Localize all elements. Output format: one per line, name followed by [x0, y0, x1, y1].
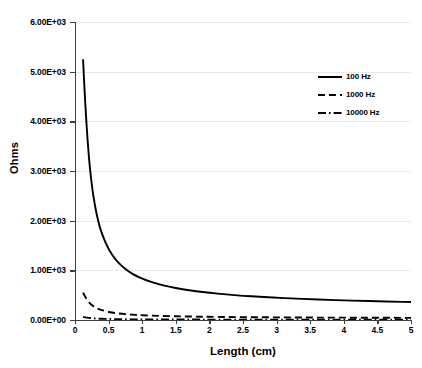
y-axis-line [75, 22, 76, 320]
legend-item[interactable]: 100 Hz [318, 72, 379, 81]
x-tick-mark [109, 320, 110, 324]
y-axis-title: Ohms [8, 128, 20, 188]
x-tick-mark [344, 320, 345, 324]
chart-container: Ohms 0.00E+001.00E+032.00E+033.00E+034.0… [0, 0, 422, 368]
y-tick-label: 4.00E+03 [2, 116, 66, 126]
x-tick-mark [310, 320, 311, 324]
y-tick-label: 6.00E+03 [2, 17, 66, 27]
y-tick-mark [70, 72, 75, 73]
y-tick-mark [70, 121, 75, 122]
y-tick-label: 0.00E+00 [2, 315, 66, 325]
legend-label: 1000 Hz [346, 90, 375, 99]
x-tick-mark [243, 320, 244, 324]
x-tick-mark [277, 320, 278, 324]
legend-line-swatch [318, 109, 342, 117]
y-tick-label: 5.00E+03 [2, 67, 66, 77]
y-tick-label: 2.00E+03 [2, 216, 66, 226]
legend-label: 10000 Hz [346, 108, 379, 117]
y-tick-mark [70, 22, 75, 23]
y-tick-label: 1.00E+03 [2, 265, 66, 275]
legend-line-swatch [318, 73, 342, 81]
chart-legend: 100 Hz1000 Hz10000 Hz [318, 72, 379, 117]
plot-area [75, 22, 411, 320]
legend-line-swatch [318, 91, 342, 99]
x-tick-mark [75, 320, 76, 324]
legend-label: 100 Hz [346, 72, 371, 81]
y-tick-mark [70, 270, 75, 271]
x-tick-mark [142, 320, 143, 324]
series-lines [75, 22, 411, 320]
x-tick-mark [176, 320, 177, 324]
y-tick-mark [70, 221, 75, 222]
legend-item[interactable]: 1000 Hz [318, 90, 379, 99]
x-tick-mark [377, 320, 378, 324]
x-axis-title: Length (cm) [75, 345, 411, 357]
y-tick-label: 3.00E+03 [2, 166, 66, 176]
y-tick-mark [70, 171, 75, 172]
x-tick-mark [209, 320, 210, 324]
legend-item[interactable]: 10000 Hz [318, 108, 379, 117]
x-tick-mark [411, 320, 412, 324]
x-tick-label: 5 [391, 325, 422, 335]
